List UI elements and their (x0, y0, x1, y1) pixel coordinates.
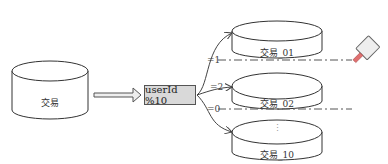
hash-function-box: userId %10 (144, 85, 196, 105)
shard-label-1: 交易_01 (260, 46, 294, 59)
shard-ellipsis: ⋮ (273, 123, 282, 133)
hollow-arrow (94, 88, 141, 102)
branch-condition-1: =1 (207, 55, 220, 65)
branch-condition-3: =0 (207, 104, 220, 114)
hash-function-label: userId %10 (145, 84, 195, 106)
cleaver-icon (349, 36, 380, 67)
shard-label-2: 交易_02 (260, 97, 294, 110)
branch-condition-2: =2 (210, 82, 223, 92)
diagram-canvas (0, 0, 388, 164)
source-db-cylinder (12, 61, 88, 119)
source-db-label: 交易 (41, 96, 59, 109)
shard-label-3: 交易_10 (260, 148, 294, 161)
